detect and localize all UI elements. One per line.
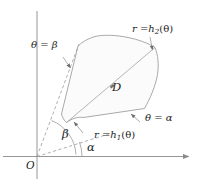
h-letter-inner: h <box>110 129 116 140</box>
region-d-shape <box>62 35 159 122</box>
h1-subscript: 1 <box>117 134 121 142</box>
label-region-d: D <box>112 82 121 94</box>
h2-subscript: 2 <box>155 28 159 36</box>
theta-arg-outer: (θ) <box>159 23 173 34</box>
region-d-fill <box>62 35 159 122</box>
arc-alpha <box>80 142 83 156</box>
h-letter-outer: h <box>148 23 154 34</box>
label-r-equals-h2: r =h2(θ) <box>132 24 173 34</box>
label-angle-beta: β <box>62 129 69 141</box>
theta-arg-inner: (θ) <box>121 129 135 140</box>
leader-theta-beta <box>63 57 71 68</box>
leader-h1 <box>74 122 83 133</box>
leader-theta-alpha <box>131 114 140 122</box>
label-angle-alpha: α <box>87 142 95 154</box>
label-theta-equals-beta: θ = β <box>31 40 58 50</box>
label-origin: O <box>26 160 35 171</box>
label-r-equals-h1: r =h1(θ) <box>94 130 135 140</box>
polar-region-figure: θ = β r =h2(θ) D θ = α r =h1(θ) β α O <box>0 0 206 186</box>
label-theta-equals-alpha: θ = α <box>145 113 173 123</box>
r-equals-text-inner: r = <box>94 129 110 140</box>
r-equals-text: r = <box>132 23 148 34</box>
